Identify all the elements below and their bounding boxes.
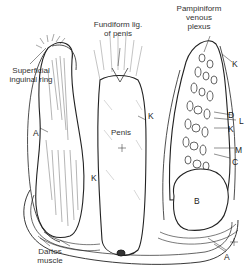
letter-k-right: K bbox=[228, 125, 234, 134]
letter-l: L bbox=[239, 117, 244, 126]
label-pampiniform-venous-plexus: Pampiniform venous plexus bbox=[164, 4, 234, 31]
label-fundiform-ligament: Fundiform lig. of penis bbox=[86, 20, 150, 38]
letter-k-top-right: K bbox=[232, 60, 238, 69]
letter-k-left: K bbox=[91, 174, 97, 183]
letter-d: D bbox=[228, 111, 234, 120]
letter-k-penis: K bbox=[148, 112, 154, 121]
letter-a-left: A bbox=[33, 129, 39, 138]
letter-b: B bbox=[194, 197, 200, 206]
label-superficial-inguinal-ring: Superficial inguinal ring bbox=[2, 66, 60, 84]
letter-a-bottom: A bbox=[224, 253, 230, 262]
letter-c: C bbox=[232, 158, 238, 167]
label-dartos-muscle: Dartos muscle bbox=[30, 247, 70, 265]
letter-m: M bbox=[235, 146, 242, 155]
anatomy-figure: Superficial inguinal ring Fundiform lig.… bbox=[0, 0, 249, 272]
label-penis: Penis bbox=[104, 128, 138, 137]
